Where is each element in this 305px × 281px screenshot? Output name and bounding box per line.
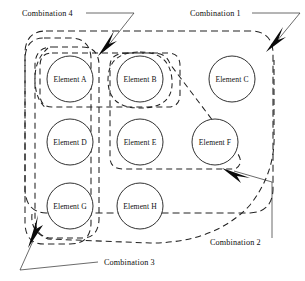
element-label-H: Element H [123,202,157,211]
element-node-G[interactable]: Element G [47,183,93,229]
diagram-canvas: Element A Element B Element C Element D … [0,0,305,281]
element-label-D: Element D [53,138,87,147]
element-label-E: Element E [124,138,157,147]
element-label-C: Element C [215,75,248,84]
combination-diagram: Element A Element B Element C Element D … [0,0,305,281]
element-label-F: Element F [199,138,231,147]
combination-1-label: Combination 1 [190,9,241,18]
combination-4-label: Combination 4 [22,9,73,18]
element-node-F[interactable]: Element F [192,119,238,165]
callout-combination-2: Combination 2 [210,168,272,247]
element-node-D[interactable]: Element D [47,119,93,165]
element-node-A[interactable]: Element A [47,56,93,102]
combination-2-label: Combination 2 [210,238,261,247]
arrowhead-combination-4 [98,31,117,56]
element-node-B[interactable]: Element B [117,56,163,102]
element-node-E[interactable]: Element E [117,119,163,165]
arrowhead-combination-3 [28,215,43,248]
element-node-H[interactable]: Element H [117,183,163,229]
arrowhead-combination-2 [222,168,250,183]
element-label-A: Element A [53,75,87,84]
region-element-a-arc [35,48,48,108]
leader-line-combination-3 [20,241,98,270]
callout-combination-1: Combination 1 [190,9,300,53]
combination-3-label: Combination 3 [104,258,155,267]
element-label-B: Element B [123,75,156,84]
element-node-C[interactable]: Element C [209,56,255,102]
element-label-G: Element G [53,202,87,211]
